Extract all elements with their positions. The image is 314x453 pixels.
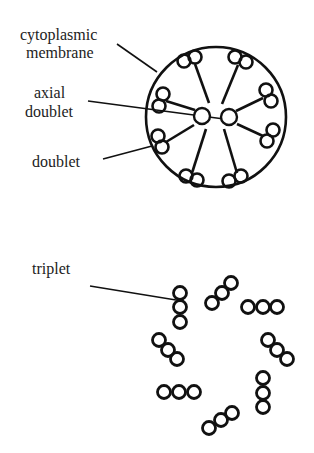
leader-triplet	[90, 286, 176, 300]
cytoplasmic-membrane	[146, 47, 286, 187]
outer-doublets	[152, 51, 280, 188]
leader-doublet	[103, 146, 152, 159]
leader-membrane	[117, 44, 157, 72]
central-pair	[194, 108, 237, 125]
cilium-diagram	[0, 0, 314, 453]
